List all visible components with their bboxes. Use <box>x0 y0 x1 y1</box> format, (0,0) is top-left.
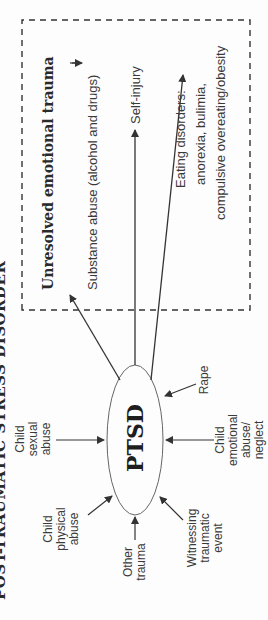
cause-rape: Rape <box>198 362 211 398</box>
outcome-substance-abuse: Substance abuse (alcohol and drugs) <box>84 75 101 290</box>
outcome-self-injury: Self-injury <box>127 66 144 124</box>
ptsd-label: PTSD <box>122 404 148 472</box>
arrow-from-child-physical-abuse <box>88 496 112 515</box>
arrow-to-substance-abuse <box>70 295 120 380</box>
cause-other-trauma: Other trauma <box>122 542 148 582</box>
diagram-title: POST-TRAUMATIC STRESS DISORDER <box>0 261 9 600</box>
cause-witnessing-traumatic-event: Witnessing traumatic event <box>186 504 225 572</box>
cause-child-sexual-abuse: Child sexual abuse <box>14 416 53 462</box>
cause-child-physical-abuse: Child physical abuse <box>42 500 81 558</box>
outcomes-heading: Unresolved emotional trauma <box>40 56 56 290</box>
ptsd-diagram: POST-TRAUMATIC STRESS DISORDER PTSD Chil… <box>0 0 268 620</box>
arrow-from-witnessing <box>160 497 183 520</box>
arrow-from-rape <box>165 384 196 396</box>
outcome-eating-disorders-line3: compulsive overeating/obesity <box>212 46 229 220</box>
cause-child-emotional-abuse: Child emotional abuse/ neglect <box>214 408 266 472</box>
outcome-eating-disorders-line2: anorexia, bulimia, <box>192 83 209 185</box>
outcome-eating-disorders-line1: Eating disorders: <box>172 90 189 188</box>
